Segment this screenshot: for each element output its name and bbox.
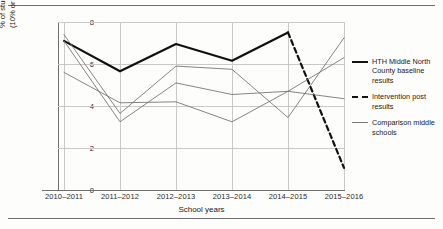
x-axis-label: School years — [58, 205, 345, 214]
series-line-2 — [64, 35, 344, 118]
legend-label-baseline: HTH Middle North County baseline results — [372, 57, 440, 85]
data-series-layer — [58, 22, 345, 190]
legend-item-intervention: Intervention post results — [352, 92, 440, 111]
y-axis-label-line-1: % of students chronically absent — [0, 0, 8, 28]
dashed-bold-line-icon — [352, 92, 368, 101]
x-tick-label-2012-2013: 2012–2013 — [147, 193, 205, 201]
legend-label-intervention: Intervention post results — [372, 92, 440, 111]
plot-area — [58, 22, 345, 190]
legend-item-baseline: HTH Middle North County baseline results — [352, 57, 440, 85]
x-tick-label-2014-2015: 2014–2015 — [259, 193, 317, 201]
y-axis-label-line-2: (10% or more days) — [8, 0, 18, 28]
series-line-1 — [288, 33, 344, 168]
x-tick-label-2013-2014: 2013–2014 — [203, 193, 261, 201]
y-axis-label: % of students chronically absent (10% or… — [0, 0, 19, 28]
chart-legend: HTH Middle North County baseline results… — [352, 57, 440, 144]
x-tick-label-2010-2011: 2010–2011 — [35, 193, 93, 201]
legend-label-comparison: Comparison middle schools — [372, 118, 440, 137]
solid-bold-line-icon — [352, 57, 368, 66]
x-tick-label-2015-2016: 2015–2016 — [315, 193, 373, 201]
x-axis-line — [42, 190, 345, 191]
thin-line-icon — [352, 118, 368, 127]
legend-item-comparison: Comparison middle schools — [352, 118, 440, 137]
line-chart-figure: 8 6 4 2 0 % of students chronically abse… — [0, 0, 443, 229]
series-line-0 — [64, 33, 288, 72]
x-tick-label-2011-2012: 2011–2012 — [91, 193, 149, 201]
